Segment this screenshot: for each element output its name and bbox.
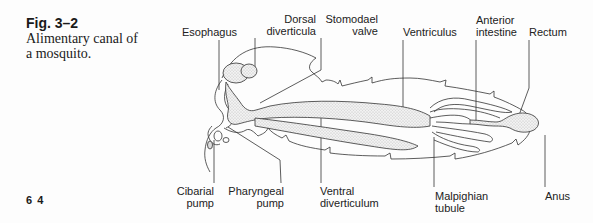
cibarial-pump-shape — [214, 131, 222, 141]
leader-rectum — [518, 40, 529, 118]
rectum-shape — [470, 113, 539, 132]
leader-pharyngeal-pump — [228, 127, 281, 183]
mosquito-alimentary-canal-diagram — [0, 0, 593, 223]
pharyngeal-pump-shape — [223, 138, 229, 143]
leader-stomodael-valve — [260, 38, 321, 103]
